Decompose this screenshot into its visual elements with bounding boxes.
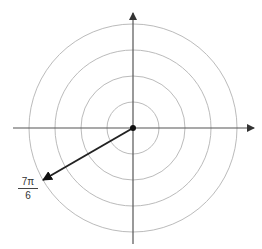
angle-vector — [43, 128, 133, 180]
angle-label: 7π 6 — [18, 176, 38, 201]
origin-point — [130, 125, 136, 131]
angle-numerator: 7π — [18, 176, 38, 189]
polar-diagram — [0, 0, 262, 249]
angle-denominator: 6 — [18, 189, 38, 201]
